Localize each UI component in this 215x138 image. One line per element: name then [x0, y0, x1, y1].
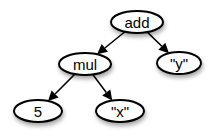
nodes-layer: addmul"y"5"x": [14, 11, 201, 122]
edge-mul-to-five: [48, 74, 75, 101]
edge-add-to-y: [147, 32, 169, 53]
edge-line: [147, 32, 161, 46]
node-label: mul: [73, 56, 97, 73]
node-x: "x": [96, 100, 144, 122]
arrowhead-icon: [102, 90, 112, 101]
node-mul: mul: [59, 53, 111, 75]
edge-line: [55, 74, 75, 94]
edge-line: [93, 74, 106, 92]
arrowhead-icon: [97, 44, 108, 54]
node-five: 5: [14, 100, 62, 122]
expression-tree-diagram: addmul"y"5"x": [0, 0, 215, 138]
node-label: "y": [170, 55, 188, 72]
node-y: "y": [157, 52, 201, 74]
node-label: 5: [34, 103, 42, 120]
edge-add-to-mul: [97, 32, 125, 55]
node-label: "x": [111, 103, 129, 120]
node-label: add: [124, 14, 149, 31]
edge-mul-to-x: [93, 74, 112, 100]
node-add: add: [111, 11, 163, 33]
edge-line: [105, 32, 125, 48]
